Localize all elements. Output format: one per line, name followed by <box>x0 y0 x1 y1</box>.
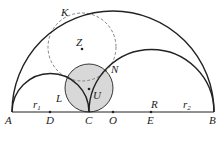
semicircle-ab <box>12 11 214 112</box>
label-c: C <box>85 114 93 126</box>
label-z: Z <box>76 36 83 48</box>
label-a: A <box>4 114 12 126</box>
label-e: E <box>146 114 154 126</box>
label-d: D <box>45 114 54 126</box>
label-n: N <box>110 63 119 75</box>
point-e <box>150 111 153 114</box>
arbelos-diagram: K Z L N U A D C O E B R r1 r2 <box>0 0 224 143</box>
point-z <box>81 48 84 51</box>
label-u: U <box>93 89 102 101</box>
point-u <box>88 88 91 91</box>
label-o: O <box>109 114 117 126</box>
label-r1: r1 <box>33 98 41 112</box>
label-b: B <box>209 114 216 126</box>
label-r: R <box>150 98 158 110</box>
label-r2: r2 <box>183 98 191 112</box>
label-k: K <box>60 6 69 18</box>
point-o <box>112 111 115 114</box>
point-d <box>49 111 52 114</box>
label-l: L <box>55 92 62 104</box>
